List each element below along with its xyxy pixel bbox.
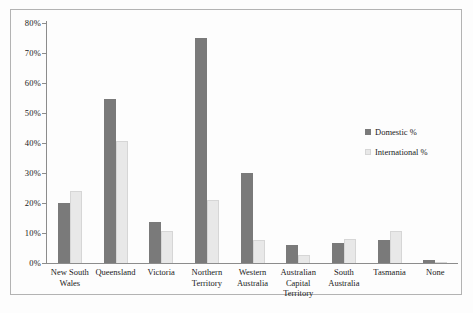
y-tick-label: 0%	[13, 258, 41, 268]
y-tick-mark	[42, 173, 46, 174]
legend-item: International %	[365, 147, 428, 157]
bar-international	[390, 231, 402, 263]
x-category-label: Northern Territory	[184, 267, 230, 299]
bar-group	[275, 23, 321, 263]
y-tick-label: 70%	[13, 48, 41, 58]
legend-swatch	[365, 129, 371, 135]
x-category-label: New South Wales	[47, 267, 93, 299]
bar-group	[138, 23, 184, 263]
y-tick-label: 60%	[13, 78, 41, 88]
y-tick-mark	[42, 263, 46, 264]
x-axis-labels: New South WalesQueenslandVictoriaNorther…	[47, 267, 458, 299]
x-category-label: South Australia	[321, 267, 367, 299]
bar-domestic	[195, 38, 207, 263]
bar-group	[321, 23, 367, 263]
bar-domestic	[423, 260, 435, 263]
bar-domestic	[149, 222, 161, 263]
legend-item: Domestic %	[365, 127, 428, 137]
legend: Domestic %International %	[365, 127, 428, 167]
y-tick-label: 50%	[13, 108, 41, 118]
bar-international	[298, 255, 310, 263]
y-tick-mark	[42, 23, 46, 24]
chart-figure: 0%10%20%30%40%50%60%70%80% New South Wal…	[10, 9, 462, 295]
x-axis-line	[46, 263, 458, 264]
bar-domestic	[104, 99, 116, 263]
legend-label: International %	[375, 147, 428, 157]
x-category-label: Victoria	[138, 267, 184, 299]
bar-international	[435, 262, 447, 263]
bar-domestic	[241, 173, 253, 263]
x-category-label: None	[412, 267, 458, 299]
y-tick-mark	[42, 143, 46, 144]
bar-domestic	[378, 240, 390, 263]
bar-group	[230, 23, 276, 263]
y-tick-label: 20%	[13, 198, 41, 208]
bar-international	[207, 200, 219, 263]
y-tick-mark	[42, 233, 46, 234]
y-tick-label: 80%	[13, 18, 41, 28]
bar-group	[184, 23, 230, 263]
bar-international	[253, 240, 265, 263]
bar-international	[116, 141, 128, 263]
y-tick-label: 30%	[13, 168, 41, 178]
y-tick-mark	[42, 53, 46, 54]
bar-international	[344, 239, 356, 263]
x-category-label: Tasmania	[367, 267, 413, 299]
bar-domestic	[286, 245, 298, 263]
x-category-label: Western Australia	[230, 267, 276, 299]
bar-domestic	[58, 203, 70, 263]
bar-group	[93, 23, 139, 263]
x-category-label: Queensland	[93, 267, 139, 299]
bar-international	[161, 231, 173, 263]
bar-group	[47, 23, 93, 263]
bar-domestic	[332, 243, 344, 263]
legend-swatch	[365, 149, 371, 155]
y-tick-label: 40%	[13, 138, 41, 148]
bar-international	[70, 191, 82, 263]
y-tick-mark	[42, 203, 46, 204]
y-tick-mark	[42, 113, 46, 114]
y-tick-mark	[42, 83, 46, 84]
legend-label: Domestic %	[375, 127, 417, 137]
x-category-label: Australian Capital Territory	[275, 267, 321, 299]
y-tick-label: 10%	[13, 228, 41, 238]
